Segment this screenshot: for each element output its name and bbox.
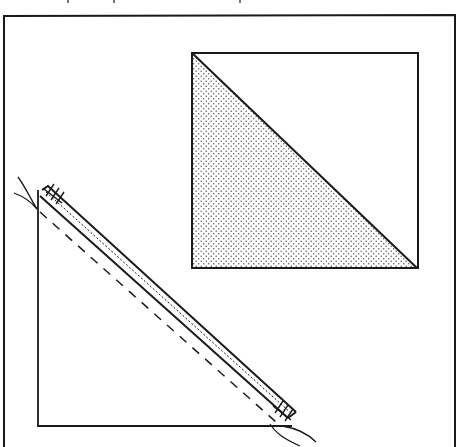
thread-tail-bottom-1 bbox=[270, 424, 300, 446]
cross-stitch-bottom bbox=[273, 401, 293, 421]
thread-tail-top-2 bbox=[14, 193, 37, 209]
diagram-canvas bbox=[0, 0, 458, 447]
thread-tail-top-1 bbox=[18, 177, 37, 209]
finished-square bbox=[192, 53, 418, 268]
cropped-caption-remnant bbox=[68, 0, 240, 3]
